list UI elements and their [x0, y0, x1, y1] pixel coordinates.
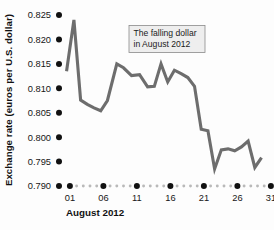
y-tick-label: 0.815 [28, 59, 51, 69]
y-tick-label: 0.820 [28, 35, 51, 45]
annotation-line-2: in August 2012 [134, 39, 191, 49]
annotation-line-1: The falling dollar [134, 28, 197, 38]
y-tick-dot [56, 12, 62, 18]
x-tick-dot [100, 183, 106, 189]
y-tick-label: 0.825 [28, 10, 51, 20]
y-tick-dot [56, 110, 62, 116]
y-tick-label: 0.810 [28, 84, 51, 94]
y-tick-dot [56, 134, 62, 140]
x-tick-label: 31 [266, 193, 274, 203]
y-axis-title: Exchange rate (euros per U.S. dollar) [3, 14, 14, 186]
x-tick-dot [134, 183, 140, 189]
x-tick-dot [201, 183, 207, 189]
x-tick-label: 06 [98, 193, 108, 203]
annotation-callout: The falling dollar in August 2012 [129, 26, 205, 53]
exchange-rate-line-chart: Exchange rate (euros per U.S. dollar) 0.… [0, 0, 274, 230]
y-tick-label: 0.800 [28, 133, 51, 143]
chart-container: Exchange rate (euros per U.S. dollar) 0.… [0, 0, 274, 230]
x-tick-label: 26 [232, 193, 242, 203]
x-axis-title: August 2012 [66, 207, 125, 218]
y-tick-label: 0.795 [28, 157, 51, 167]
y-tick-dot [56, 36, 62, 42]
x-tick-label: 01 [65, 193, 75, 203]
y-tick-label: 0.805 [28, 108, 51, 118]
x-tick-dot [167, 183, 173, 189]
y-tick-label: 0.790 [28, 181, 51, 191]
y-tick-dot [56, 85, 62, 91]
x-tick-label: 11 [132, 193, 142, 203]
y-tick-dot [56, 183, 62, 189]
y-tick-dot [56, 159, 62, 165]
x-tick-dot [234, 183, 240, 189]
x-tick-dot [268, 183, 274, 189]
x-tick-label: 21 [199, 193, 209, 203]
y-tick-dot [56, 61, 62, 67]
x-tick-label: 16 [165, 193, 175, 203]
x-tick-dot [67, 183, 73, 189]
